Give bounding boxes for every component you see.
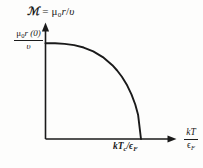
title-equals: =	[42, 5, 48, 17]
y-axis-numerator: μ0r (0)	[14, 29, 42, 41]
x-axis-arrow-icon	[168, 135, 177, 142]
title-script-m: ℳ	[27, 4, 39, 18]
figure-container: ℳ=μ0r/υ μ0r (0) υ kTc/ϵF kT ϵF	[0, 0, 203, 168]
y-num-rest: r (0)	[24, 28, 40, 38]
x-den-subscript: F	[191, 143, 195, 150]
plot-title: ℳ=μ0r/υ	[27, 6, 74, 19]
y-axis-label: μ0r (0) υ	[12, 29, 45, 52]
x-axis-numerator: kT	[184, 128, 198, 140]
xtick-epsilon-subscript: F	[133, 145, 137, 152]
x-axis-label: kT ϵF	[180, 128, 202, 151]
y-axis-fraction: μ0r (0) υ	[14, 29, 42, 52]
y-axis-denominator: υ	[14, 41, 42, 51]
x-axis	[46, 135, 177, 142]
x-axis-tick-label: kTc/ϵF	[113, 142, 138, 152]
order-parameter-curve	[46, 43, 142, 139]
x-axis-denominator: ϵF	[184, 140, 198, 151]
title-upsilon: υ	[69, 5, 74, 17]
plot-canvas	[0, 0, 203, 168]
x-axis-fraction: kT ϵF	[184, 128, 198, 151]
